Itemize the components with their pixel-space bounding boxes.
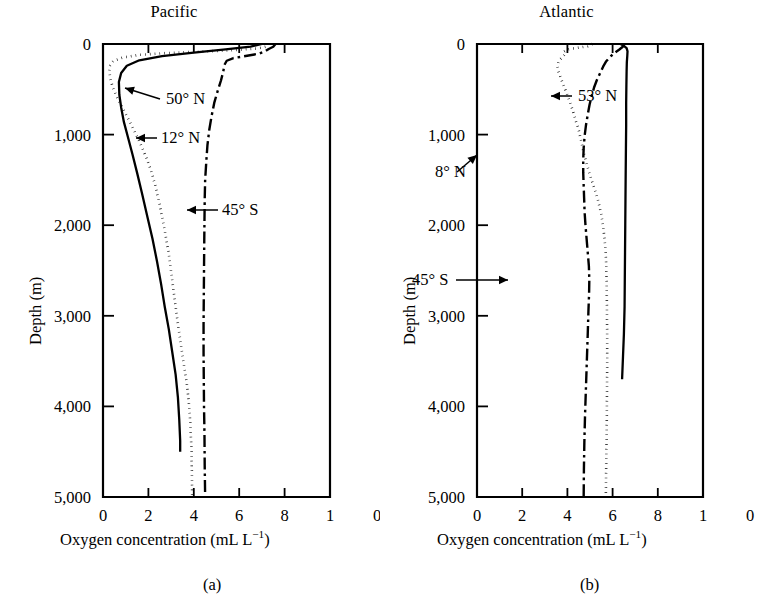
series-curve [583,44,624,497]
y-tick-label: 4,000 [428,397,465,416]
panel-atlantic: Atlantic 024681001,0002,0003,0004,0005,0… [374,0,759,613]
y-tick-label: 3,000 [428,307,465,326]
y-tick-label: 0 [457,35,465,54]
y-tick-label: 4,000 [54,397,91,416]
y-tick-label: 2,000 [54,216,91,235]
y-tick-label: 1,000 [54,126,91,145]
x-axis-label-atlantic: Oxygen concentration (mL L−1) [437,528,647,550]
y-tick-label: 5,000 [428,488,465,507]
annotation-atlantic-45s-arrowhead [499,276,508,284]
annotation-pacific-12n-arrowhead [136,134,145,142]
annotation-pacific-12n-label: 12° N [161,128,200,147]
annotation-pacific-45s-arrowhead [187,206,196,214]
series-curve [109,44,268,497]
x-tick-label: 4 [563,506,571,525]
annotation-atlantic-53n-arrowhead [551,92,560,100]
x-tick-label: 6 [608,506,616,525]
series-curve [621,44,628,379]
axis-frame [103,44,330,497]
x-tick-label: 1 [699,506,707,525]
oxygen-profile-figure: Pacific 024681001,0002,0003,0004,0005,00… [0,0,759,613]
x-tick-label: 2 [518,506,526,525]
x-axis-label-text: Oxygen concentration (mL L [60,530,252,549]
x-axis-label-text: Oxygen concentration (mL L [437,530,629,549]
annotation-pacific-50n-arrowhead [125,87,135,95]
x-axis-label-paren: ) [264,530,270,549]
panel-caption-a: (a) [203,575,221,595]
series-curve [557,44,607,497]
y-tick-label: 3,000 [54,307,91,326]
series-curve [204,44,276,497]
x-tick-label-overflow: 0 [746,506,754,525]
plot-area-pacific: 024681001,0002,0003,0004,0005,00050° N12… [0,0,380,613]
x-tick-label: 8 [280,506,288,525]
x-tick-label: 0 [473,506,481,525]
panel-pacific: Pacific 024681001,0002,0003,0004,0005,00… [0,0,380,613]
annotation-pacific-50n-label: 50° N [166,89,205,108]
y-axis-label-atlantic: Depth (m) [400,277,420,345]
panel-caption-b: (b) [580,575,599,595]
x-tick-label: 8 [654,506,662,525]
x-tick-label: 4 [190,506,198,525]
y-tick-label: 1,000 [428,126,465,145]
axis-frame [477,44,703,497]
x-axis-label-paren: ) [641,530,647,549]
y-tick-label: 2,000 [428,216,465,235]
y-axis-label-pacific: Depth (m) [26,277,46,345]
x-tick-label: 6 [235,506,243,525]
annotation-pacific-45s-label: 45° S [222,200,258,219]
plot-area-atlantic: 024681001,0002,0003,0004,0005,00053° N8°… [374,0,759,613]
y-tick-label: 5,000 [54,488,91,507]
annotation-atlantic-8n-label: 8° N [435,162,466,181]
x-tick-label: 2 [144,506,152,525]
annotation-atlantic-53n-label: 53° N [578,86,617,105]
x-tick-label: 0 [99,506,107,525]
x-axis-label-exponent: −1 [629,528,641,540]
x-axis-label-pacific: Oxygen concentration (mL L−1) [60,528,270,550]
x-tick-label: 1 [326,506,334,525]
y-tick-label: 0 [83,35,91,54]
x-axis-label-exponent: −1 [252,528,264,540]
